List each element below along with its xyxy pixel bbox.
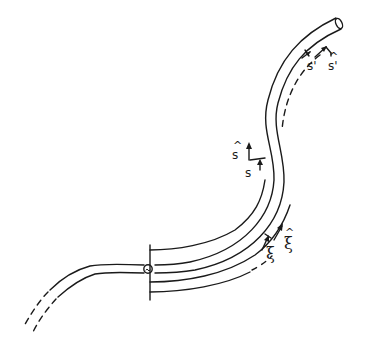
label-s-hat-prime: s' (328, 60, 338, 72)
offset-curve-upper (150, 180, 265, 250)
label-s-prime: s' (307, 60, 317, 72)
s-base-line (250, 158, 265, 160)
tube-left-dashed-upper (24, 292, 48, 326)
tube-diagram (0, 0, 365, 351)
junction-circle (144, 265, 152, 273)
label-s-hat: s (232, 149, 238, 161)
tube-end-cap (334, 17, 344, 30)
label-s: s (245, 167, 251, 179)
tube-left-edge-lower (58, 272, 144, 297)
xi-arrowhead (264, 235, 269, 242)
tube-left-edge-upper (50, 264, 144, 290)
s-arrowhead (257, 159, 263, 165)
s-hat-arrowhead (246, 142, 252, 149)
tube-left-dashed-lower (33, 299, 56, 332)
label-xi-hat: ξ (284, 236, 293, 252)
label-xi: ξ (266, 246, 275, 262)
